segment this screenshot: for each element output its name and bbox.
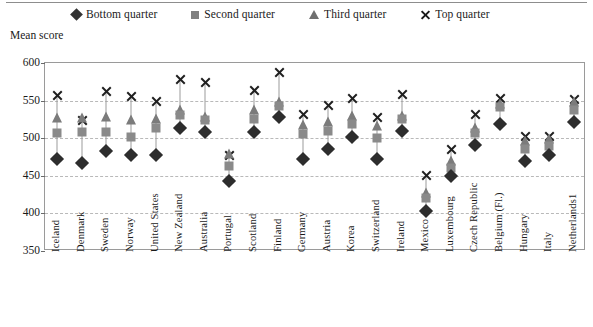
data-point-cross — [421, 170, 432, 181]
data-point-diamond — [247, 125, 261, 139]
x-axis-label: Italy — [543, 232, 554, 252]
data-point-triangle — [224, 148, 234, 158]
x-axis-label: Iceland — [51, 220, 62, 252]
y-axis-tick-label: 350 — [2, 244, 40, 256]
y-axis-tick-label: 550 — [2, 94, 40, 106]
x-axis-label: Scotland — [248, 214, 259, 252]
legend-label: Top quarter — [435, 9, 489, 21]
data-point-triangle — [323, 116, 333, 126]
data-point-diamond — [173, 121, 187, 135]
y-axis-tick-mark — [41, 63, 45, 64]
legend-item-bottom-quarter: Bottom quarter — [72, 9, 157, 21]
data-point-diamond — [99, 144, 113, 158]
data-point-diamond — [468, 138, 482, 152]
x-axis-label: Sweden — [100, 218, 111, 252]
y-axis-tick-mark — [41, 138, 45, 139]
data-point-diamond — [370, 151, 384, 165]
data-point-square — [495, 103, 504, 112]
data-point-square — [151, 123, 160, 132]
legend-item-top-quarter: Top quarter — [420, 9, 489, 21]
data-point-diamond — [493, 117, 507, 131]
data-point-square — [102, 128, 111, 137]
x-axis-label: Ireland — [395, 221, 406, 252]
y-axis-tick-label: 450 — [2, 169, 40, 181]
x-axis-label: Norway — [125, 217, 136, 252]
data-point-cross — [347, 93, 358, 104]
data-point-diamond — [517, 154, 531, 168]
y-axis-tick-label: 500 — [2, 131, 40, 143]
data-point-cross — [298, 109, 309, 120]
data-point-square — [225, 162, 234, 171]
data-point-square — [520, 144, 529, 153]
data-point-cross — [199, 77, 210, 88]
x-axis-label: Switzerland — [371, 200, 382, 252]
x-axis-label: Luxembourg — [445, 196, 456, 252]
data-point-square — [53, 128, 62, 137]
data-point-diamond — [75, 156, 89, 170]
data-point-cross — [249, 85, 260, 96]
data-point-square — [372, 134, 381, 143]
data-point-square — [299, 130, 308, 139]
gridline — [45, 176, 584, 177]
data-point-diamond — [345, 130, 359, 144]
y-axis-tick-mark — [41, 101, 45, 102]
cross-marker-icon — [420, 10, 430, 20]
chart-container: Bottom quarter Second quarter Third quar… — [0, 0, 593, 327]
data-point-triangle — [298, 119, 308, 129]
data-point-cross — [470, 109, 481, 120]
data-point-square — [348, 119, 357, 128]
data-point-triangle — [151, 113, 161, 123]
data-point-diamond — [567, 115, 581, 129]
data-point-triangle — [249, 104, 259, 114]
data-point-diamond — [321, 142, 335, 156]
data-point-diamond — [272, 110, 286, 124]
data-point-diamond — [394, 124, 408, 138]
diamond-marker-icon — [70, 8, 83, 21]
legend-label: Second quarter — [204, 9, 275, 21]
data-point-triangle — [77, 112, 87, 122]
chart-legend: Bottom quarter Second quarter Third quar… — [72, 9, 490, 21]
data-point-square — [471, 128, 480, 137]
legend-item-third-quarter: Third quarter — [309, 9, 386, 21]
data-point-cross — [126, 91, 137, 102]
x-axis-label: New Zealand — [174, 194, 185, 252]
data-point-square — [323, 126, 332, 135]
data-point-cross — [396, 89, 407, 100]
y-axis-tick-label: 600 — [2, 56, 40, 68]
data-point-square — [127, 133, 136, 142]
data-point-diamond — [296, 152, 310, 166]
x-axis-label: Portugal — [223, 215, 234, 252]
data-point-cross — [101, 86, 112, 97]
data-point-square — [422, 193, 431, 202]
x-axis-label: Germany — [297, 212, 308, 252]
data-point-cross — [445, 144, 456, 155]
data-point-cross — [52, 90, 63, 101]
x-axis-label: Denmark — [76, 212, 87, 252]
y-axis-tick-mark — [41, 213, 45, 214]
data-point-square — [200, 116, 209, 125]
data-point-diamond — [50, 152, 64, 166]
data-point-diamond — [419, 204, 433, 218]
x-axis-label: Hungary — [518, 214, 529, 252]
x-axis-label: Korea — [346, 225, 357, 252]
data-point-square — [569, 105, 578, 114]
data-point-triangle — [372, 121, 382, 131]
legend-label: Bottom quarter — [86, 9, 157, 21]
data-point-square — [176, 110, 185, 119]
y-axis-tick-label: 400 — [2, 206, 40, 218]
triangle-marker-icon — [309, 10, 319, 19]
legend-label: Third quarter — [324, 9, 386, 21]
data-point-triangle — [126, 115, 136, 125]
x-axis-label: Netherlands1 — [567, 194, 578, 252]
legend-item-second-quarter: Second quarter — [191, 9, 275, 21]
x-axis-label: Finland — [272, 219, 283, 253]
x-axis-label: Belgium (Fl.) — [494, 192, 505, 252]
y-axis-title: Mean score — [10, 29, 63, 41]
x-axis-labels: IcelandDenmarkSwedenNorwayUnited StatesN… — [44, 252, 585, 327]
x-axis-label: United States — [149, 193, 160, 252]
data-point-diamond — [124, 148, 138, 162]
data-point-square — [250, 115, 259, 124]
x-axis-label: Czech Republic — [469, 182, 480, 252]
range-stem — [57, 95, 58, 159]
data-point-square — [77, 128, 86, 137]
